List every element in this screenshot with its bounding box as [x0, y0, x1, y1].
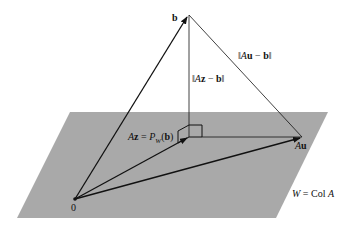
var-u: u	[301, 140, 307, 151]
norm-close: ‖	[222, 73, 225, 84]
origin-point	[73, 197, 77, 201]
label-dist-au: ‖Au − b‖	[238, 51, 272, 61]
equals: =	[300, 188, 311, 199]
label-projection: Az = PW(b)	[128, 132, 173, 145]
paren-close: )	[170, 131, 173, 142]
label-origin: 0	[71, 203, 76, 213]
equals: =	[139, 131, 150, 142]
label-b: b	[172, 13, 178, 23]
col-text: Col	[311, 188, 328, 199]
var-a: A	[328, 188, 334, 199]
minus: −	[252, 50, 263, 61]
label-dist-az: ‖Az − b‖	[192, 74, 224, 84]
subspace-plane	[17, 112, 328, 218]
norm-close: ‖	[269, 50, 272, 61]
label-au: Au	[295, 141, 307, 151]
minus: −	[205, 73, 216, 84]
label-plane: W = Col A	[292, 189, 334, 199]
projection-diagram: b ‖Au − b‖ ‖Az − b‖ Az = PW(b) Au 0 W = …	[0, 0, 347, 229]
